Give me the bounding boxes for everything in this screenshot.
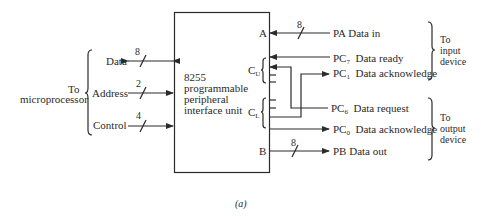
output-line1: To	[440, 112, 450, 123]
control-width: 4	[136, 110, 141, 121]
pc6-data-request: PC6 Data request	[331, 103, 409, 114]
address-width: 2	[136, 78, 141, 89]
port-b-label: B	[259, 146, 266, 157]
pb-data-out: PB Data out	[333, 146, 387, 157]
input-line1: To	[440, 34, 450, 45]
pa-width: 8	[297, 19, 302, 30]
data-label: Data	[106, 56, 127, 67]
pc1-data-ack: PC1 Data acknowledge	[333, 68, 437, 79]
cl-brace	[261, 98, 266, 128]
input-line2: input	[440, 45, 461, 56]
data-width: 8	[135, 46, 140, 57]
address-label: Address	[92, 88, 128, 99]
pc0-data-ack: PC0 Data acknowledge	[333, 124, 437, 135]
cu-brace	[261, 58, 266, 83]
output-line2: output	[440, 123, 466, 134]
pc7-data-ready: PC7 Data ready	[333, 53, 403, 64]
output-line3: device	[440, 134, 466, 145]
figure-caption: (a)	[235, 198, 247, 209]
unit-line4: interface unit	[184, 105, 242, 116]
pa-data-in: PA Data in	[333, 28, 380, 39]
input-line3: device	[440, 56, 466, 67]
port-a-label: A	[259, 28, 267, 39]
pb-width: 8	[291, 137, 296, 148]
control-label: Control	[93, 120, 127, 131]
port-cl-label: CL	[248, 107, 260, 118]
to-micro-line2: microprocessor	[20, 94, 88, 105]
diagram-lines	[0, 0, 491, 216]
port-cu-label: CU	[248, 65, 260, 76]
